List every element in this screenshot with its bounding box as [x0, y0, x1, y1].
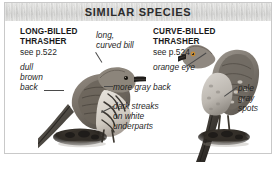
species-name-line-1: CURVE-BILLED: [153, 27, 216, 37]
species-name-line-2: THRASHER: [20, 37, 78, 47]
leader-line-more-gray-back: [104, 86, 113, 87]
caption-dark-streaks-on-white-underparts: dark streaks on white underparts: [113, 101, 159, 132]
page-reference-curve-billed-thrasher[interactable]: see p.524: [153, 47, 190, 57]
ground-mound-left: [52, 126, 110, 148]
leader-line-dull-brown-back: [44, 90, 64, 91]
species-name-long-billed-thrasher: LONG-BILLED THRASHER: [20, 27, 78, 46]
caption-long-curved-bill: long, curved bill: [96, 30, 134, 50]
species-name-curve-billed-thrasher: CURVE-BILLED THRASHER: [153, 27, 216, 46]
species-name-line-1: LONG-BILLED: [20, 27, 78, 37]
similar-species-panel: SIMILAR SPECIES: [0, 0, 276, 170]
page-reference-long-billed-thrasher[interactable]: see p.522: [20, 47, 57, 57]
species-name-line-2: THRASHER: [153, 37, 216, 47]
caption-dull-brown-back: dull brown back: [20, 62, 43, 93]
caption-pale-gray-spots: pale gray spots: [238, 83, 258, 114]
panel-title: SIMILAR SPECIES: [5, 3, 271, 21]
ground-mound-right: [196, 126, 254, 148]
caption-more-gray-back: more gray back: [113, 82, 171, 92]
panel-header-band: SIMILAR SPECIES: [5, 3, 271, 21]
